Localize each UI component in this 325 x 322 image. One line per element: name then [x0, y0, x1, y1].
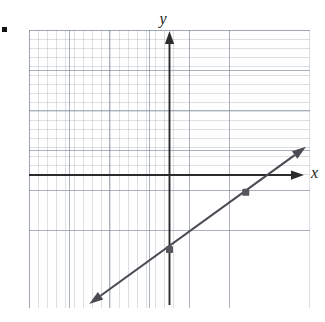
graph-vectors [0, 0, 325, 322]
plotted-line [89, 147, 306, 304]
x-axis-arrowhead-icon [291, 170, 304, 179]
y-axis [165, 31, 174, 305]
line-arrowhead-end-icon [292, 147, 306, 159]
data-point-marker [242, 189, 249, 196]
data-points [166, 189, 249, 253]
y-axis-label: y [160, 11, 167, 27]
graph-figure: y x [0, 0, 325, 322]
x-axis-label: x [311, 165, 318, 181]
plotted-line-segment [101, 155, 295, 296]
line-arrowhead-start-icon [89, 292, 103, 304]
y-axis-arrowhead-icon [165, 31, 174, 44]
data-point-marker [166, 246, 173, 253]
